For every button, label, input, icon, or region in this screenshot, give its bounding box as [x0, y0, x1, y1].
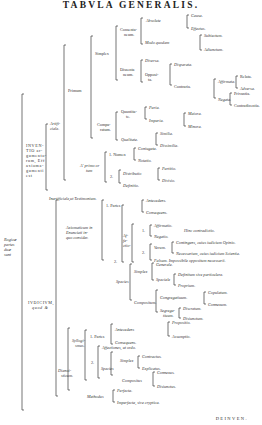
compositum-label: Compositum. — [134, 300, 156, 305]
relata-label: Relata. — [240, 74, 252, 79]
contingens-label: Contingens, cuius iudicium Opinio. — [176, 240, 235, 245]
necessarium-label: Necessarium, cuius iudicium Scientia. — [176, 251, 240, 256]
hinc-label: Hinc contradictio. — [184, 228, 215, 233]
dissentaneum-line: neum. — [120, 72, 134, 77]
dissimilia-label: Dissimilia. — [160, 143, 178, 148]
inartificiale-label: Inartificiale,ut Testimonium. — [49, 196, 97, 201]
imperfecta-label: Imperfecta, sive cryptica. — [117, 400, 160, 405]
qualitate-label: Qualitate. — [121, 137, 138, 142]
consequens1-label: Consequens. — [146, 210, 167, 215]
modo-quodam-label: Modo quodam — [145, 40, 169, 45]
opposita-line: ta. — [145, 77, 159, 82]
verum-label: Verum. — [154, 245, 166, 250]
affirmata-label: Affirmata. — [218, 79, 235, 84]
disparata-label: Disparata. — [174, 62, 192, 67]
segregatiuum-line: tiuum. — [160, 313, 175, 318]
definitio-label: Definitio. — [123, 183, 139, 188]
perfecta-label: Perfecta. — [117, 388, 132, 393]
contraria-label: Contraria. — [174, 84, 191, 89]
syllogismus-line: smus. — [72, 343, 85, 348]
two-label: 2. — [110, 174, 113, 179]
contractus-label: Contractus. — [142, 354, 162, 359]
root-label-line: sunt — [4, 252, 17, 257]
contradicentia-label: Contradicentia. — [234, 103, 260, 108]
coniugata-label: Coniugata. — [138, 146, 157, 151]
antecedens1-label: Antecedens. — [146, 198, 166, 203]
simplex2-label: Simplex — [134, 269, 147, 274]
definitum-label: Definitum sive particulare. — [178, 272, 223, 277]
simplex3-label: Simplex — [120, 358, 133, 363]
affirmatio-label: Affirmatio. — [154, 223, 172, 228]
similia-label: Similia. — [160, 131, 173, 136]
consentaneum-label: Consenta- neum. — [120, 27, 137, 37]
two2-label: 2. — [91, 360, 94, 365]
species2-label: Species — [101, 366, 114, 371]
partes1-label: 1. Partes — [106, 203, 120, 208]
axioma-label: Axiomaticum in Enunciati in- quo conside… — [66, 225, 92, 240]
propositio-label: Propositio. — [172, 320, 191, 325]
axioma-line: quo consider. — [66, 235, 92, 240]
catchword: DEINVEN. — [216, 416, 248, 421]
two-verum-label: 2. — [142, 250, 145, 255]
a-primo-line: tum — [80, 168, 99, 173]
inventio-line: est — [26, 173, 47, 178]
affectiones-label: Affectiones, ut ordo. — [102, 345, 136, 350]
subiectum-label: Subiectum. — [204, 33, 223, 38]
diversa-label: Diversa. — [145, 58, 159, 63]
comparatum-label: Compa- ratum. — [97, 122, 111, 132]
notatio-label: Notatio. — [138, 158, 152, 163]
negatio-label: Negatio. — [154, 234, 168, 239]
one-label: 1. — [142, 228, 145, 233]
speciale-label: Speciale — [156, 277, 170, 282]
methodus-label: Methodus — [87, 394, 104, 399]
generale-label: Generale. — [156, 262, 173, 267]
dianoia-label: Dianoi- sticum. — [58, 368, 73, 378]
causa-label: Causa. — [191, 13, 203, 18]
syllogismus-label: Syllogi- smus. — [72, 338, 85, 348]
comparatum-line: ratum. — [97, 127, 111, 132]
divisio-label: Divisio. — [162, 178, 175, 183]
artificiale-label: Artifi- ciale. — [50, 121, 60, 131]
table-generalis-page: TABVLA GENERALIS. — [0, 0, 262, 425]
discretum-label: Discretum. — [183, 306, 201, 311]
connexum-label: Connexum. — [208, 302, 227, 307]
disiunctus-label: Disiunctus. — [157, 384, 176, 389]
affectio-label: Af- fe- ctio- — [123, 233, 131, 248]
copulatum-label: Copulatum. — [208, 290, 228, 295]
two-axioma-label: 2. — [114, 259, 117, 264]
species-label: Species — [116, 279, 129, 284]
antecedens2-label: Antecedens — [115, 327, 134, 332]
affectio-line: ctio- — [123, 243, 131, 248]
absolute-label: Absolute — [146, 18, 161, 23]
adiunctum-label: Adiunctum. — [204, 47, 223, 52]
privantia-label: Privantia. — [234, 91, 250, 96]
quantitate-label: Quantita- te. — [121, 109, 137, 119]
simplex-label: Simplex — [95, 51, 109, 56]
quantitate-line: te. — [121, 114, 137, 119]
connexus-label: Connexus. — [157, 370, 175, 375]
imparia-label: Imparia. — [149, 118, 164, 123]
distributio-label: Distributio — [123, 171, 141, 176]
negata-label: Negata. — [218, 97, 231, 102]
maiora-label: Maiora. — [188, 111, 202, 116]
opposita-label: Opposi- ta. — [145, 72, 159, 82]
a-primo-label: A' primo or tum — [80, 163, 99, 173]
iudicium-line: quod & — [28, 305, 54, 310]
assumptio-label: Assumptio. — [172, 334, 191, 339]
nomen-label: 1. Nomen — [109, 152, 126, 157]
artificiale-line: ciale. — [50, 126, 60, 131]
compositus-label: Compositus — [122, 378, 142, 383]
dianoia-line: sticum. — [58, 373, 73, 378]
segregatiuum-label: Segrega- tiuum. — [160, 308, 175, 318]
partes2-label: 1. Partes — [90, 334, 104, 339]
iudicium-label: IVDICIVM, quod & — [28, 300, 54, 310]
inventio-label: INVEN- TIO ar- gumento- rum, Eff axioma-… — [26, 143, 47, 178]
effectus-label: Effectus. — [191, 26, 206, 31]
partitio-label: Partitio. — [162, 166, 176, 171]
proprium-label: Proprium. — [178, 283, 195, 288]
primum-label: Primum — [68, 88, 82, 93]
minora-label: Minora. — [188, 124, 202, 129]
dissentaneum-label: Dissenta neum. — [120, 67, 134, 77]
consentaneum-line: neum. — [120, 32, 137, 37]
root-label: Rogicæ partes duæ sunt — [4, 237, 17, 257]
